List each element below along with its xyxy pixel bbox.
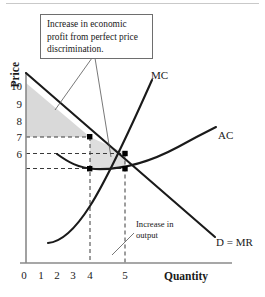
- x-tick-label: 5: [122, 269, 128, 281]
- profit-annotation-line-3: discrimination.: [47, 44, 104, 54]
- y-axis-label: Price: [9, 62, 21, 88]
- data-point-price-7: [87, 134, 92, 139]
- x-tick-label: 4: [87, 269, 93, 281]
- x-tick-label: 1: [38, 269, 44, 281]
- profit-annotation-line-2: profit from perfect price: [47, 32, 138, 42]
- leader-line-to-triangle: [55, 58, 92, 110]
- ac-curve-label: AC: [218, 129, 233, 141]
- y-tick-label: 8: [17, 115, 23, 127]
- y-tick-label: 7: [17, 131, 23, 143]
- output-annotation-line-2: output: [136, 230, 159, 240]
- y-tick-label: 6: [17, 148, 23, 160]
- data-point-ac-at-q4: [87, 166, 92, 171]
- demand-curve: [26, 73, 215, 237]
- data-point-ac-at-q5: [122, 166, 127, 171]
- profit-annotation-line-1: Increase in economic: [47, 19, 127, 29]
- y-tick-label: 9: [17, 98, 23, 110]
- demand-curve-label: D = MR: [216, 236, 253, 248]
- x-axis-label: Quantity: [164, 270, 208, 283]
- output-annotation-line-1: Increase in: [136, 219, 174, 229]
- x-tick-label: 2: [54, 269, 60, 281]
- profit-triangle-shading: [26, 83, 90, 137]
- x-tick-label: 0: [21, 269, 27, 281]
- data-point-mc-demand-intersection: [122, 151, 127, 156]
- mc-curve-label: MC: [151, 69, 168, 81]
- economics-chart: 10 9 8 7 6 0 1 2 3 4 5 Price Quantity MC…: [0, 0, 265, 297]
- leader-line-to-output-axis: [112, 233, 134, 255]
- x-tick-label: 3: [70, 269, 76, 281]
